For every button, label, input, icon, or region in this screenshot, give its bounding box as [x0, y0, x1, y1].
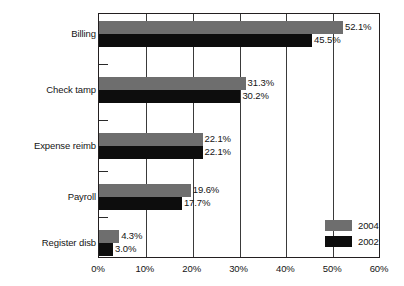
legend-label-2002: 2002 [358, 236, 379, 247]
value-label-2004-payroll: 19.6% [193, 184, 219, 195]
bar-chart: Billing Check tamp Expense reimb Payroll… [0, 0, 404, 286]
legend-item-2004: 2004 [325, 218, 379, 232]
group-tick-check-tamp [99, 64, 108, 65]
x-tick-label: 10% [125, 263, 165, 275]
legend-swatch-2004 [325, 220, 352, 231]
bar-2004-register-disb [99, 230, 119, 243]
bar-2004-check-tamp [99, 77, 246, 90]
legend-swatch-2002 [325, 236, 352, 247]
value-label-2002-payroll: 17.7% [184, 197, 210, 208]
bar-2002-payroll [99, 197, 182, 210]
legend-item-2002: 2002 [325, 234, 379, 248]
value-label-2004-expense-reimb: 22.1% [205, 133, 231, 144]
value-label-2004-billing: 52.1% [345, 21, 371, 32]
category-label-payroll: Payroll [68, 191, 96, 202]
group-tick-expense-reimb [99, 120, 108, 121]
bar-2002-check-tamp [99, 90, 240, 103]
legend: 2004 2002 [325, 218, 379, 250]
gridline-30% [240, 14, 241, 257]
category-label-billing: Billing [71, 28, 96, 39]
x-tick-label: 50% [312, 263, 352, 275]
x-tick-label: 0% [78, 263, 118, 275]
category-label-check-tamp: Check tamp [46, 84, 96, 95]
value-label-2004-register-disb: 4.3% [121, 230, 142, 241]
x-tick-label: 30% [219, 263, 259, 275]
category-label-register-disb: Register disb [42, 237, 96, 248]
category-label-expense-reimb: Expense reimb [34, 140, 96, 151]
legend-label-2004: 2004 [358, 220, 379, 231]
bar-2002-billing [99, 34, 312, 47]
x-tick-label: 40% [265, 263, 305, 275]
value-label-2002-check-tamp: 30.2% [242, 90, 268, 101]
group-tick-payroll [99, 171, 108, 172]
group-tick-register-disb [99, 217, 108, 218]
x-tick-label: 20% [172, 263, 212, 275]
bar-2004-payroll [99, 184, 191, 197]
x-tick-label: 60% [359, 263, 399, 275]
bar-2002-register-disb [99, 243, 113, 256]
value-label-2002-register-disb: 3.0% [115, 243, 136, 254]
value-label-2004-check-tamp: 31.3% [248, 77, 274, 88]
bar-2004-expense-reimb [99, 133, 203, 146]
bar-2004-billing [99, 21, 343, 34]
value-label-2002-billing: 45.5% [314, 34, 340, 45]
value-label-2002-expense-reimb: 22.1% [205, 146, 231, 157]
gridline-40% [286, 14, 287, 257]
bar-2002-expense-reimb [99, 146, 203, 159]
